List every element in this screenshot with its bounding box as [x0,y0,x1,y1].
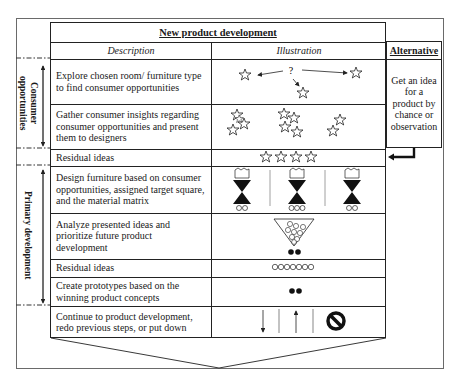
illustrations: ? [0,0,462,389]
residual-circles [272,264,313,269]
prototype-dots [289,288,302,294]
continue-illustration [263,309,344,333]
phase-label-consumer-opportunities: Consumer opportunities [17,62,39,144]
explore-illustration: ? [239,65,362,98]
phase-label-primary-development: Primary development [20,170,36,300]
analyze-illustration [274,219,314,255]
prohibited-icon [328,313,344,329]
return-arrow-icon [392,148,414,157]
residual-stars [260,151,317,162]
gather-illustration [227,108,346,137]
question-mark: ? [289,65,294,76]
bottom-chevron [51,338,386,368]
